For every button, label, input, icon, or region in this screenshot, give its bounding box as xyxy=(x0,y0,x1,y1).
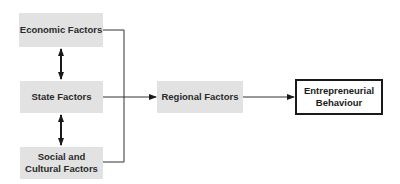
node-label: Economic Factors xyxy=(20,24,102,36)
node-state-factors: State Factors xyxy=(20,81,103,113)
node-social-cultural-factors: Social and Cultural Factors xyxy=(20,147,103,179)
node-label-line2: Behaviour xyxy=(316,97,362,109)
bracket-connector xyxy=(103,30,124,162)
node-label-line2: Cultural Factors xyxy=(25,163,98,175)
node-entrepreneurial-behaviour: Entrepreneurial Behaviour xyxy=(295,79,383,115)
node-label: State Factors xyxy=(31,91,91,103)
node-label: Regional Factors xyxy=(161,91,238,103)
node-label-line1: Social and xyxy=(38,151,86,163)
node-regional-factors: Regional Factors xyxy=(157,81,243,113)
node-economic-factors: Economic Factors xyxy=(19,13,103,47)
node-label-line1: Entrepreneurial xyxy=(304,85,374,97)
